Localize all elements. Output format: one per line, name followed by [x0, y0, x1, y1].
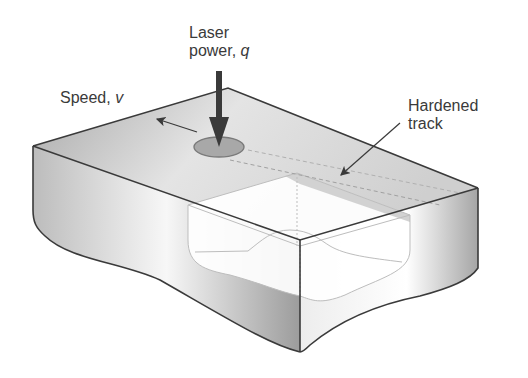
- laser-hardening-diagram: [0, 0, 528, 378]
- speed-symbol: v: [115, 89, 123, 106]
- laser-label-line2: power, q: [189, 42, 250, 60]
- speed-text: Speed,: [60, 89, 115, 106]
- hardened-track-label: Hardened track: [408, 97, 478, 133]
- hardened-label-line2: track: [408, 115, 478, 133]
- laser-label-line1: Laser: [189, 24, 250, 42]
- laser-power-label: Laser power, q: [189, 24, 250, 60]
- hardened-label-line1: Hardened: [408, 97, 478, 115]
- laser-power-symbol: q: [241, 42, 250, 59]
- laser-power-text: power,: [189, 42, 241, 59]
- speed-label: Speed, v: [60, 89, 123, 107]
